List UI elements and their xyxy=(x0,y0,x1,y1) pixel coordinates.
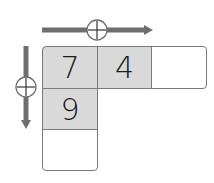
cell-r1c0[interactable]: 9 xyxy=(42,88,98,130)
operator-arrows xyxy=(0,0,214,183)
cell-r2c0[interactable] xyxy=(42,129,98,171)
cell-r0c1[interactable]: 4 xyxy=(97,46,152,89)
cell-r0c2[interactable] xyxy=(151,46,207,89)
cell-r0c0[interactable]: 7 xyxy=(42,46,98,89)
horizontal-plus-arrow-icon xyxy=(42,20,153,40)
vertical-plus-arrow-icon xyxy=(16,46,36,129)
